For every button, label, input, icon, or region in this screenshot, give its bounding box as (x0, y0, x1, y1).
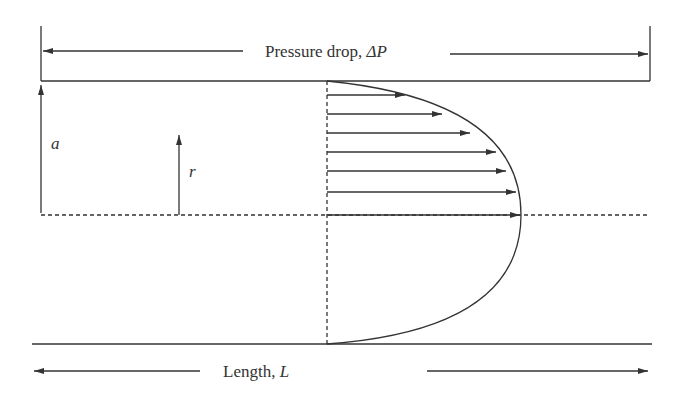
velocity-profile-curve (327, 81, 521, 344)
pressure-drop-text: Pressure drop, (265, 42, 367, 61)
delta-p-symbol: ΔP (367, 42, 387, 61)
length-symbol: L (280, 362, 289, 381)
length-label: Length, L (223, 362, 289, 382)
radius-a-label: a (51, 134, 60, 154)
pressure-drop-label: Pressure drop, ΔP (265, 42, 387, 62)
length-text: Length, (223, 362, 280, 381)
r-label: r (189, 162, 196, 182)
